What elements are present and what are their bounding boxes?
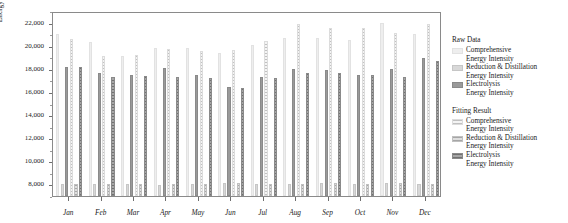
bar: [316, 38, 319, 196]
legend-block-title: Raw Data: [452, 36, 568, 44]
bar: [237, 183, 240, 196]
bar: [283, 38, 286, 196]
x-axis-label-mar: Mar: [115, 208, 151, 217]
bar: [163, 68, 166, 196]
x-axis-tick-mark: [133, 197, 134, 201]
plot-area: [53, 13, 440, 196]
bar: [371, 75, 374, 196]
x-axis-tick-mark: [328, 197, 329, 201]
y-axis-tick-label: 18,000: [25, 65, 44, 73]
x-axis-tick-mark: [392, 197, 393, 201]
bar: [403, 77, 406, 196]
plot-frame: [52, 12, 441, 197]
bar: [74, 184, 77, 196]
bar: [191, 184, 194, 196]
bar: [348, 40, 351, 196]
bar: [176, 77, 179, 196]
bar: [102, 56, 105, 196]
x-axis-tick-mark: [101, 197, 102, 201]
bar: [232, 50, 235, 196]
y-axis-minor-tick-mark: [50, 197, 52, 198]
bar: [292, 69, 295, 196]
legend-swatch: [452, 65, 463, 71]
bar: [56, 34, 59, 196]
y-axis-tick-label: 12,000: [25, 134, 44, 142]
x-axis-tick-mark: [68, 197, 69, 201]
bar: [61, 184, 64, 196]
bar: [200, 51, 203, 196]
legend-block: Raw DataComprehensiveEnergy IntensityRed…: [452, 36, 568, 98]
bar: [301, 184, 304, 196]
bar: [288, 184, 291, 196]
bar: [399, 183, 402, 196]
legend-entry[interactable]: ElectrolysisEnergy Intensity: [452, 151, 568, 168]
bar: [385, 183, 388, 196]
bar: [158, 185, 161, 196]
bar: [167, 49, 170, 196]
bar: [431, 184, 434, 196]
bar: [121, 56, 124, 196]
bar: [186, 48, 189, 196]
legend-swatch: [452, 82, 463, 88]
x-axis-label-may: May: [180, 208, 216, 217]
bar: [130, 75, 133, 196]
x-axis-label-jul: Jul: [245, 208, 281, 217]
bar: [269, 184, 272, 196]
x-axis-label-sep: Sep: [310, 208, 346, 217]
bar: [79, 67, 82, 196]
bar: [366, 184, 369, 196]
x-axis-label-apr: Apr: [147, 208, 183, 217]
x-axis-label-jun: Jun: [212, 208, 248, 217]
legend-swatch: [452, 48, 463, 54]
bar: [338, 73, 341, 196]
legend-entry[interactable]: ComprehensiveEnergy Intensity: [452, 117, 568, 134]
bar: [427, 24, 430, 196]
bar: [218, 53, 221, 196]
bar: [362, 28, 365, 196]
bar: [154, 48, 157, 196]
bar: [241, 88, 244, 196]
legend-entry[interactable]: ElectrolysisEnergy Intensity: [452, 80, 568, 97]
bar: [353, 184, 356, 196]
bar: [209, 78, 212, 196]
bar: [306, 73, 309, 196]
bar: [329, 28, 332, 196]
bar: [111, 77, 114, 196]
y-axis-tick-label: 16,000: [25, 88, 44, 96]
bar: [380, 23, 383, 196]
legend-swatch: [452, 119, 463, 125]
x-axis-tick-mark: [295, 197, 296, 201]
legend-swatch: [452, 136, 463, 142]
bar: [417, 184, 420, 196]
bar: [297, 24, 300, 196]
legend-entry-label: Reduction & DistillationEnergy Intensity: [466, 134, 537, 151]
y-axis-title: Energy Intensity (kWh/t): [0, 0, 4, 50]
bar: [227, 87, 230, 196]
y-axis-tick-label: 20,000: [25, 42, 44, 50]
bar: [325, 70, 328, 196]
legend-block: Fitting ResultComprehensiveEnergy Intens…: [452, 107, 568, 169]
bar: [422, 58, 425, 196]
bar: [255, 184, 258, 196]
legend-entry-label: ComprehensiveEnergy Intensity: [466, 117, 514, 134]
bar: [264, 41, 267, 196]
bar: [320, 183, 323, 196]
legend-block-title: Fitting Result: [452, 107, 568, 115]
x-axis-tick-mark: [165, 197, 166, 201]
bar: [98, 73, 101, 196]
bar: [89, 42, 92, 196]
y-axis-tick-label: 10,000: [25, 157, 44, 165]
x-axis-label-feb: Feb: [83, 208, 119, 217]
bar: [251, 45, 254, 196]
x-axis-tick-mark: [230, 197, 231, 201]
bar: [172, 184, 175, 196]
chart-root: Energy Intensity (kWh/t) 8,00010,00012,0…: [0, 0, 568, 223]
bar: [139, 184, 142, 196]
x-axis-label-aug: Aug: [277, 208, 313, 217]
legend-entry[interactable]: Reduction & DistillationEnergy Intensity: [452, 134, 568, 151]
bar: [357, 75, 360, 196]
bar: [204, 184, 207, 196]
bar: [394, 33, 397, 196]
legend-entry[interactable]: Reduction & DistillationEnergy Intensity: [452, 63, 568, 80]
legend-entry[interactable]: ComprehensiveEnergy Intensity: [452, 46, 568, 63]
